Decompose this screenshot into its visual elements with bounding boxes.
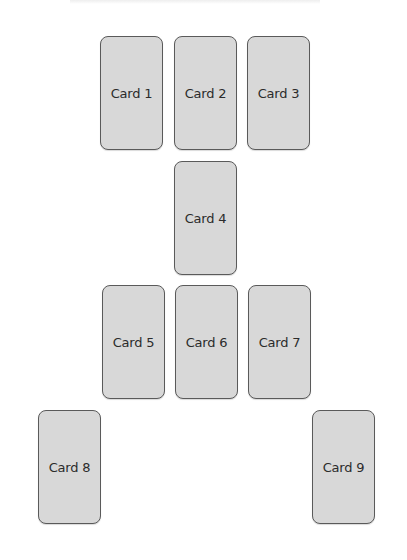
card-9: Card 9 xyxy=(312,410,375,524)
card-5: Card 5 xyxy=(102,285,165,399)
card-6: Card 6 xyxy=(175,285,238,399)
card-3: Card 3 xyxy=(247,36,310,150)
card-4: Card 4 xyxy=(174,161,237,275)
card-1: Card 1 xyxy=(100,36,163,150)
card-label: Card 6 xyxy=(186,335,228,350)
card-label: Card 3 xyxy=(258,86,300,101)
card-2: Card 2 xyxy=(174,36,237,150)
card-8: Card 8 xyxy=(38,410,101,524)
card-7: Card 7 xyxy=(248,285,311,399)
card-label: Card 2 xyxy=(185,86,227,101)
card-label: Card 8 xyxy=(49,460,91,475)
card-label: Card 5 xyxy=(113,335,155,350)
card-label: Card 9 xyxy=(323,460,365,475)
card-label: Card 7 xyxy=(259,335,301,350)
card-label: Card 4 xyxy=(185,211,227,226)
cropped-header-remnant xyxy=(70,0,320,4)
card-label: Card 1 xyxy=(111,86,153,101)
